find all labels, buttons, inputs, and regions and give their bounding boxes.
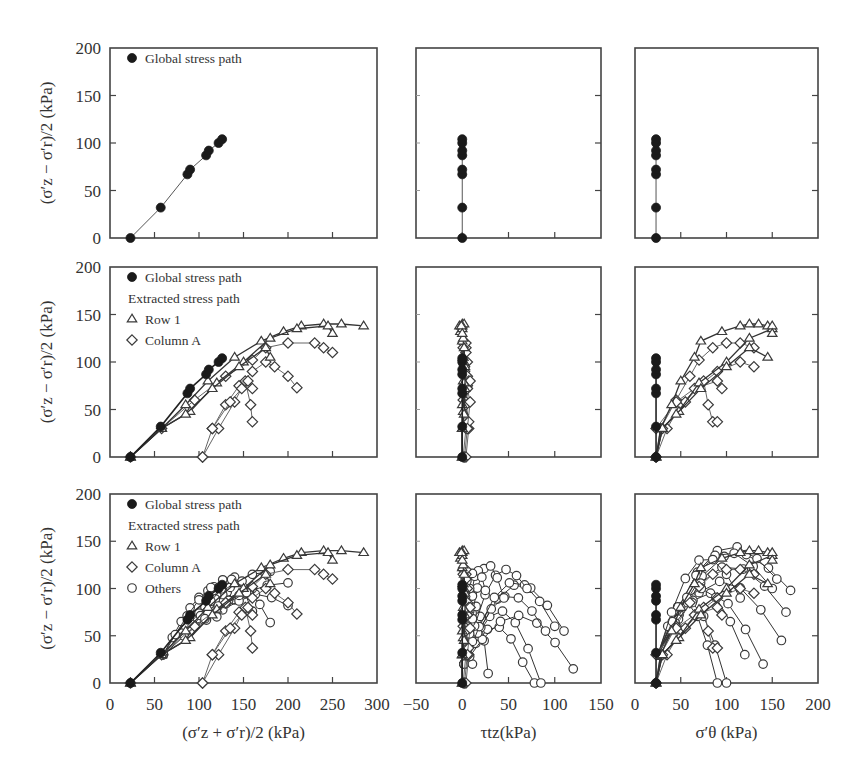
circle-marker-icon bbox=[266, 618, 275, 627]
circle-marker-icon bbox=[505, 579, 514, 588]
legend-label: Global stress path bbox=[145, 270, 242, 285]
circle-marker-icon bbox=[715, 577, 724, 586]
global-marker-icon bbox=[204, 365, 213, 374]
x-tick-label: −50 bbox=[403, 695, 430, 714]
x-axis-title-col3: σ′θ (kPa) bbox=[695, 723, 757, 742]
x-tick-label: 0 bbox=[631, 695, 640, 714]
legend-label: Extracted stress path bbox=[128, 291, 240, 306]
global-marker-icon bbox=[458, 165, 467, 174]
diamond-marker-icon bbox=[327, 347, 337, 357]
triangle-marker-icon bbox=[337, 319, 346, 327]
row3-data bbox=[125, 543, 795, 688]
global-marker-icon bbox=[126, 679, 135, 688]
circle-marker-icon bbox=[496, 617, 505, 626]
diamond-marker-icon bbox=[703, 626, 713, 636]
panel-r1-c2 bbox=[416, 48, 601, 238]
circle-marker-icon bbox=[284, 579, 293, 588]
diamond-marker-icon bbox=[283, 371, 293, 381]
x-tick-label: 50 bbox=[500, 695, 517, 714]
triangle-marker-icon bbox=[265, 353, 274, 361]
circle-marker-icon bbox=[569, 665, 578, 674]
triangle-marker-icon bbox=[754, 546, 763, 554]
circle-marker-icon bbox=[490, 593, 499, 602]
circle-marker-icon bbox=[502, 565, 511, 574]
diamond-marker-icon bbox=[318, 569, 328, 579]
global-marker-icon bbox=[156, 648, 165, 657]
circle-marker-icon bbox=[667, 608, 676, 617]
panel-r2-c2 bbox=[416, 267, 601, 457]
global-marker-icon bbox=[458, 234, 467, 243]
global-marker-icon bbox=[652, 610, 661, 619]
plot-frame bbox=[416, 48, 601, 238]
plot-frame bbox=[110, 48, 377, 238]
circle-marker-icon bbox=[713, 679, 722, 688]
triangle-marker-icon bbox=[763, 353, 772, 361]
global-marker-icon bbox=[458, 453, 467, 462]
diamond-marker-icon bbox=[245, 626, 255, 636]
triangle-marker-icon bbox=[230, 353, 239, 361]
circle-marker-icon bbox=[486, 562, 495, 571]
global-marker-icon bbox=[204, 146, 213, 155]
circle-marker-icon bbox=[128, 584, 137, 593]
global-marker-icon bbox=[128, 54, 137, 63]
global-marker-icon bbox=[218, 354, 227, 363]
global-marker-icon bbox=[458, 679, 467, 688]
plot-frame bbox=[635, 48, 818, 238]
y-tick-label: 150 bbox=[76, 87, 102, 106]
x-tick-label: 150 bbox=[588, 695, 614, 714]
legend-label: Row 1 bbox=[145, 312, 181, 327]
legend-row1: Global stress path bbox=[128, 51, 242, 66]
circle-marker-icon bbox=[741, 650, 750, 659]
y-axis-title: (σ′z − σ′r)/2 (kPa) bbox=[37, 527, 56, 650]
y-tick-label: 150 bbox=[76, 532, 102, 551]
global-marker-icon bbox=[652, 354, 661, 363]
circle-marker-icon bbox=[726, 617, 735, 626]
global-marker-icon bbox=[458, 610, 467, 619]
x-tick-label: 200 bbox=[275, 695, 301, 714]
circle-marker-icon bbox=[535, 597, 544, 606]
y-tick-label: 0 bbox=[93, 229, 102, 248]
diamond-marker-icon bbox=[327, 574, 337, 584]
circle-marker-icon bbox=[722, 679, 731, 688]
plot-frame bbox=[416, 494, 601, 683]
global-marker-icon bbox=[458, 135, 467, 144]
diamond-marker-icon bbox=[310, 338, 320, 348]
y-tick-label: 50 bbox=[84, 401, 101, 420]
global-marker-icon bbox=[186, 384, 195, 393]
x-tick-label: 100 bbox=[186, 695, 212, 714]
legend-label: Column A bbox=[145, 560, 201, 575]
circle-marker-icon bbox=[500, 594, 509, 603]
global-marker-icon bbox=[458, 354, 467, 363]
x-tick-label: 0 bbox=[458, 695, 467, 714]
circle-marker-icon bbox=[560, 627, 569, 636]
circle-marker-icon bbox=[514, 611, 523, 620]
diamond-marker-icon bbox=[269, 362, 279, 372]
circle-marker-icon bbox=[695, 556, 704, 565]
row2-data bbox=[125, 319, 777, 462]
circle-marker-icon bbox=[741, 625, 750, 634]
circle-marker-icon bbox=[759, 660, 768, 669]
diamond-marker-icon bbox=[247, 643, 257, 653]
global-marker-icon bbox=[128, 500, 137, 509]
legend-label: Column A bbox=[145, 333, 201, 348]
global-marker-icon bbox=[186, 610, 195, 619]
x-tick-label: 50 bbox=[672, 695, 689, 714]
panel-r1-c3 bbox=[635, 48, 818, 238]
circle-marker-icon bbox=[681, 574, 690, 583]
global-marker-icon bbox=[218, 580, 227, 589]
global-marker-icon bbox=[458, 384, 467, 393]
x-axis-title-col2: τtz(kPa) bbox=[481, 723, 537, 742]
circle-marker-icon bbox=[498, 607, 507, 616]
circle-marker-icon bbox=[484, 669, 493, 678]
diamond-marker-icon bbox=[318, 343, 328, 353]
circle-marker-icon bbox=[507, 635, 516, 644]
global-marker-icon bbox=[126, 453, 135, 462]
y-tick-label: 0 bbox=[93, 674, 102, 693]
x-axis-title-col1: (σ′z + σ′r)/2 (kPa) bbox=[182, 723, 305, 742]
legend-label: Global stress path bbox=[145, 497, 242, 512]
global-marker-icon bbox=[652, 165, 661, 174]
global-marker-icon bbox=[186, 165, 195, 174]
y-tick-label: 200 bbox=[76, 39, 102, 58]
circle-marker-icon bbox=[757, 605, 766, 614]
diamond-marker-icon bbox=[247, 417, 257, 427]
